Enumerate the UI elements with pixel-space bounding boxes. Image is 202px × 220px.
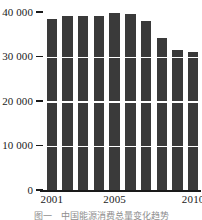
x-axis-line bbox=[40, 190, 201, 192]
bar bbox=[157, 38, 167, 190]
bar-slot bbox=[91, 12, 107, 190]
bar-slot bbox=[138, 12, 154, 190]
bar-chart-figure: 40 00030 00020 00010 0000 200120052010 图… bbox=[0, 0, 202, 220]
bar bbox=[188, 52, 198, 190]
bar bbox=[141, 21, 151, 190]
bar bbox=[47, 19, 57, 190]
y-axis-tick-label: 10 000 bbox=[2, 140, 36, 151]
bar bbox=[62, 16, 72, 190]
x-axis-tick-label: 2005 bbox=[103, 193, 126, 206]
bar bbox=[78, 16, 88, 190]
figure-caption-text: 图一 中国能源消费总量变化趋势 bbox=[0, 211, 202, 220]
bar-slot bbox=[170, 12, 186, 190]
bar bbox=[94, 16, 104, 190]
x-axis-tick-label: 2010 bbox=[182, 193, 202, 206]
bar-slot bbox=[107, 12, 123, 190]
x-axis: 200120052010 bbox=[44, 193, 201, 209]
bar-slot bbox=[123, 12, 139, 190]
bar bbox=[172, 50, 182, 190]
plot-area bbox=[44, 12, 201, 190]
figure-caption: 图一 中国能源消费总量变化趋势 bbox=[0, 211, 202, 220]
bar bbox=[109, 13, 119, 190]
bar-slot bbox=[44, 12, 60, 190]
y-axis-tick-mark bbox=[36, 145, 43, 146]
y-axis-tick-label: 0 bbox=[27, 185, 36, 196]
bar bbox=[125, 14, 135, 190]
y-axis-tick-mark bbox=[36, 56, 43, 57]
y-axis: 40 00030 00020 00010 0000 bbox=[0, 0, 44, 220]
bar-slot bbox=[75, 12, 91, 190]
bar-slot bbox=[185, 12, 201, 190]
bar-slot bbox=[154, 12, 170, 190]
bar-slot bbox=[60, 12, 76, 190]
y-axis-tick-label: 40 000 bbox=[2, 7, 36, 18]
y-axis-tick-mark bbox=[36, 11, 43, 12]
y-axis-tick-mark bbox=[36, 100, 43, 101]
bar-series bbox=[44, 12, 201, 190]
x-axis-tick-label: 2001 bbox=[40, 193, 63, 206]
y-axis-tick-label: 30 000 bbox=[2, 51, 36, 62]
y-axis-tick-label: 20 000 bbox=[2, 96, 36, 107]
